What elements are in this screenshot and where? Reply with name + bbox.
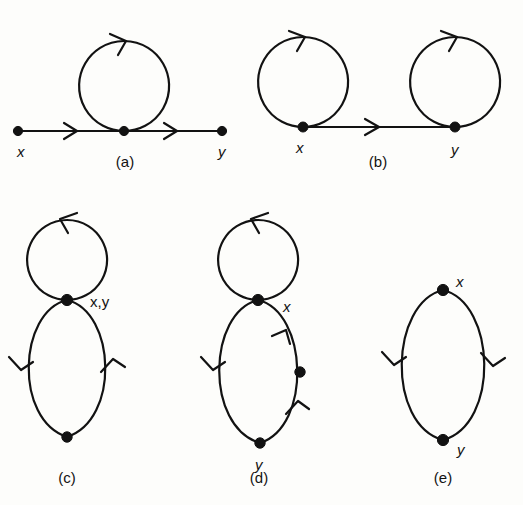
panel-a-loop-top-arrow (110, 34, 126, 55)
panel-e-edge-left-arc (402, 290, 443, 440)
panel-d-right-arc-dot (295, 367, 305, 377)
panel-b: xy(b) (258, 31, 500, 170)
panel-c: x,y(c) (9, 213, 125, 486)
panel-b-node-label-0: x (295, 139, 304, 156)
panel-a-center-vertex (119, 126, 128, 135)
panel-d: xy(d) (201, 213, 309, 486)
panel-d-upper-right-arrow (272, 330, 290, 344)
panel-d-edge-lower-loop-right (258, 300, 297, 443)
panel-b-caption: (b) (369, 153, 387, 170)
panel-d-node-label-0: x (282, 298, 291, 315)
panel-d-edge-lower-loop-left (219, 300, 260, 443)
panel-c-upper-loop-arrow (60, 213, 77, 233)
panel-c-bottom-vertex (62, 432, 72, 442)
panel-b-x-vertex (298, 122, 308, 132)
panel-a-edge-tadpole-loop (79, 41, 169, 131)
panel-d-junction-vertex-x (252, 294, 263, 305)
figure-container: xy(a)xy(b)x,y(c)xy(d)xy(e) (0, 0, 523, 505)
panel-c-edge-lower-loop-right (67, 300, 105, 437)
panel-e-edge-right-arc (443, 290, 484, 440)
panel-e-top-vertex-x (437, 284, 448, 295)
panel-b-node-label-1: y (450, 141, 460, 158)
panels-group: xy(a)xy(b)x,y(c)xy(d)xy(e) (9, 31, 505, 486)
panel-e: xy(e) (382, 273, 505, 486)
panel-d-lower-left-arrow (201, 357, 225, 370)
panel-b-left-loop-arrow (289, 31, 305, 51)
panel-c-edge-lower-loop-left (29, 300, 67, 437)
panel-d-upper-loop-arrow (251, 213, 268, 233)
panel-c-junction-vertex (61, 294, 72, 305)
panel-e-node-label-1: y (456, 441, 466, 458)
panel-b-edge-left-loop (258, 37, 348, 127)
panel-a-node-label-1: y (217, 143, 227, 160)
panel-e-bottom-vertex-y (437, 434, 448, 445)
panel-b-right-loop-arrow (441, 31, 457, 51)
panel-e-node-label-0: x (455, 273, 464, 290)
panel-a-caption: (a) (116, 153, 134, 170)
panel-a: xy(a) (13, 34, 227, 170)
panel-c-caption: (c) (58, 469, 76, 486)
diagram-canvas: xy(a)xy(b)x,y(c)xy(d)xy(e) (0, 0, 523, 505)
panel-d-caption: (d) (250, 469, 268, 486)
panel-b-edge-right-loop (410, 37, 500, 127)
panel-a-y-vertex (217, 126, 226, 135)
panel-e-caption: (e) (434, 469, 452, 486)
panel-c-node-label-0: x,y (90, 293, 110, 310)
panel-a-x-vertex (13, 126, 22, 135)
panel-a-node-label-0: x (16, 143, 25, 160)
panel-b-y-vertex (450, 122, 460, 132)
panel-d-bottom-vertex-y (255, 438, 265, 448)
